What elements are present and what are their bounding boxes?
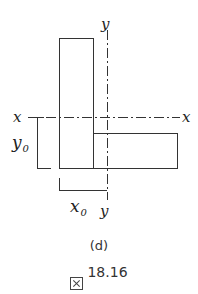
figure-caption: 図18.16	[0, 264, 198, 290]
vertical-plate-rect	[60, 39, 94, 169]
x-axis-right-label: x	[182, 108, 191, 126]
horizontal-plate-rect	[94, 134, 178, 169]
y0-label: y0	[11, 132, 30, 154]
figure-kanji-icon: 図	[70, 277, 83, 290]
y-axis-bottom-label: y	[99, 202, 109, 220]
y-axis-top-label: y	[100, 15, 110, 33]
y0-dimension	[37, 117, 51, 169]
subfigure-caption: (d)	[0, 238, 198, 253]
x-axis-left-label: x	[13, 108, 22, 126]
figure-number: 18.16	[87, 264, 127, 280]
x0-dimension	[59, 178, 107, 191]
x0-label: x0	[70, 196, 88, 218]
